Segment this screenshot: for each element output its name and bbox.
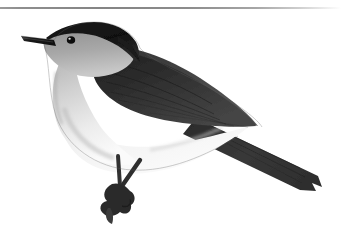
bird-svg: Grayscale illustration of a small perche…: [0, 0, 341, 242]
image-canvas: Grayscale illustration of a small perche…: [0, 0, 341, 242]
bird-feet: [100, 183, 134, 224]
bird-illustration: Grayscale illustration of a small perche…: [0, 0, 341, 242]
bird-eye: [67, 36, 75, 44]
